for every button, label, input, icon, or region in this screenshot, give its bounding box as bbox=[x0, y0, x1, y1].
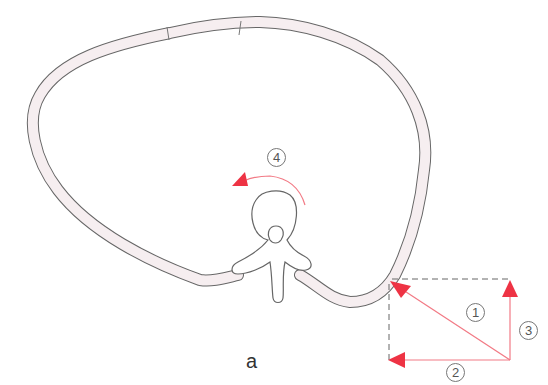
diagram-canvas: 4 1 3 2 a bbox=[0, 0, 548, 385]
rib-ring bbox=[33, 21, 425, 302]
vector-2-arrowhead-icon bbox=[388, 352, 405, 368]
spinal-canal bbox=[268, 226, 283, 243]
vertebra-outline bbox=[232, 191, 311, 303]
rib-outer-band bbox=[33, 22, 425, 302]
vertebra bbox=[232, 191, 311, 303]
label-vector-4: 4 bbox=[267, 148, 286, 167]
arrowhead-icon bbox=[232, 172, 248, 186]
force-vectors bbox=[388, 279, 518, 368]
vector-1-arrowhead-icon bbox=[390, 281, 411, 298]
label-vector-1: 1 bbox=[466, 303, 485, 322]
figure-caption: a bbox=[246, 350, 257, 373]
label-vector-3: 3 bbox=[519, 321, 538, 340]
vector-1-line bbox=[400, 288, 510, 360]
thorax-diagram bbox=[0, 0, 548, 385]
label-vector-2: 2 bbox=[446, 363, 465, 382]
vector-3-arrowhead-icon bbox=[502, 280, 518, 297]
